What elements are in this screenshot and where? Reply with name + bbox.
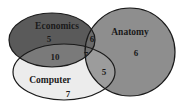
anatomy-label: Anatomy xyxy=(111,27,149,37)
economics-anatomy-count: 6 xyxy=(90,34,95,44)
economics-only-count: 5 xyxy=(47,34,52,44)
anatomy-only-count: 6 xyxy=(134,48,139,58)
economics-label: Economics xyxy=(35,21,79,31)
computer-only-count: 7 xyxy=(66,89,71,99)
venn-diagram: Economics Anatomy Computer 5 6 10 7 6 5 … xyxy=(0,0,181,111)
computer-label: Computer xyxy=(29,75,71,85)
anatomy-computer-count: 5 xyxy=(102,67,107,77)
all-three-count: 7 xyxy=(84,50,89,60)
economics-computer-count: 10 xyxy=(51,52,61,62)
